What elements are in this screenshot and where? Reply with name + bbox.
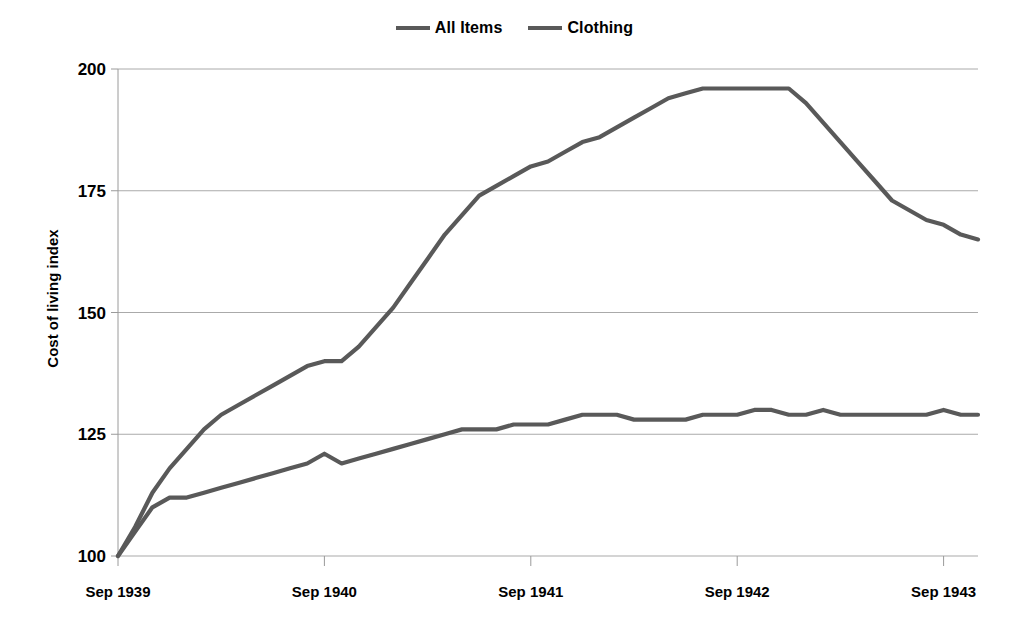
series-line-clothing	[118, 410, 978, 556]
series-line-all-items	[118, 88, 978, 556]
cost-of-living-chart: All Items Clothing Cost of living index …	[0, 0, 1029, 637]
plot-area	[0, 0, 1029, 637]
